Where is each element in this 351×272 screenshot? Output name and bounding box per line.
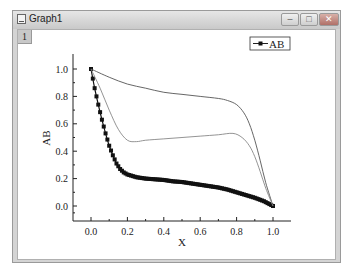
square-marker: [105, 138, 109, 142]
y-tick-label: 0.4: [56, 146, 69, 157]
square-marker: [113, 157, 117, 161]
legend-label: AB: [269, 38, 284, 50]
x-tick-label: 0.8: [230, 226, 243, 237]
x-axis-title: X: [178, 236, 186, 248]
legend[interactable]: AB: [250, 37, 290, 50]
square-marker: [111, 153, 115, 157]
x-tick-label: 0.4: [158, 226, 171, 237]
y-tick-label: 0.8: [56, 91, 69, 102]
square-marker: [96, 103, 100, 107]
y-tick-label: 0.2: [56, 173, 69, 184]
plot-area[interactable]: 0.00.20.40.60.81.00.00.20.40.60.81.0XAB …: [0, 0, 351, 272]
square-marker: [107, 144, 111, 148]
square-marker: [94, 94, 98, 98]
series-line-middle-curve: [91, 69, 273, 206]
y-tick-label: 0.6: [56, 118, 69, 129]
square-marker: [102, 125, 106, 129]
x-tick-label: 0.0: [85, 226, 98, 237]
square-marker: [91, 77, 95, 81]
square-marker: [100, 118, 104, 122]
square-marker: [109, 149, 113, 153]
y-tick-label: 1.0: [56, 64, 69, 75]
square-marker: [98, 110, 102, 114]
x-tick-label: 0.6: [194, 226, 207, 237]
axes: 0.00.20.40.60.81.00.00.20.40.60.81.0XAB: [40, 54, 291, 248]
x-tick-label: 0.2: [121, 226, 134, 237]
square-marker: [104, 131, 108, 135]
y-axis-title: AB: [40, 130, 52, 145]
square-marker: [93, 86, 97, 90]
y-tick-label: 0.0: [56, 201, 69, 212]
data-series: [89, 67, 275, 208]
x-tick-label: 1.0: [267, 226, 280, 237]
legend-square-marker-icon: [259, 42, 263, 46]
